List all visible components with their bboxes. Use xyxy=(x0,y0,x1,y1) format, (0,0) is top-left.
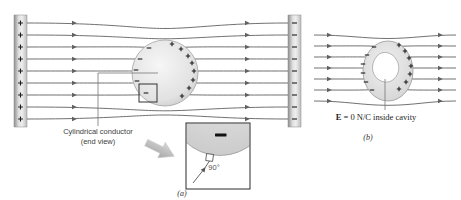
part-a: Cylindrical conductor (end view) (a) xyxy=(14,15,301,198)
field-arrowhead xyxy=(245,105,250,109)
field-arrowhead xyxy=(72,105,77,109)
part-b: E = 0 N/C inside cavity (b) xyxy=(314,35,456,142)
field-arrowhead xyxy=(72,21,77,25)
field-arrowhead xyxy=(72,69,77,73)
field-arrowhead xyxy=(327,66,332,70)
field-arrowhead xyxy=(245,69,250,73)
field-arrowhead xyxy=(72,93,77,97)
conductor-label-line2: (end view) xyxy=(81,137,116,146)
conductor-label-line1: Cylindrical conductor xyxy=(63,127,133,136)
field-arrowhead xyxy=(438,66,443,70)
field-arrowhead xyxy=(245,117,250,121)
caption-b: (b) xyxy=(363,133,373,142)
angle-label: 90° xyxy=(208,163,219,172)
field-arrowhead xyxy=(327,77,332,81)
inset-minus-charge xyxy=(215,134,227,137)
cavity-label-text: = 0 N/C inside cavity xyxy=(341,112,417,122)
field-arrowhead xyxy=(245,81,250,85)
field-arrowhead xyxy=(245,45,250,49)
figure-conductor-in-field: Cylindrical conductor (end view) (a) 90° xyxy=(0,0,461,200)
field-arrowhead xyxy=(438,77,443,81)
field-arrowhead xyxy=(327,99,332,103)
cavity-field-label: E = 0 N/C inside cavity xyxy=(336,112,417,122)
field-arrowhead xyxy=(438,33,443,37)
field-arrowhead xyxy=(72,57,77,61)
field-arrowhead xyxy=(327,33,332,37)
caption-a: (a) xyxy=(177,189,187,198)
right-angle-marker xyxy=(206,154,214,162)
field-arrowhead xyxy=(245,33,250,37)
field-arrowhead xyxy=(438,99,443,103)
field-arrowhead xyxy=(72,81,77,85)
field-arrowhead xyxy=(438,88,443,92)
field-arrowhead xyxy=(438,55,443,59)
magnify-block-arrow xyxy=(143,135,178,164)
field-arrowhead xyxy=(72,33,77,37)
field-arrowhead xyxy=(245,93,250,97)
field-arrowhead xyxy=(438,44,443,48)
cavity xyxy=(373,52,399,82)
field-arrowhead xyxy=(245,21,250,25)
field-arrowhead xyxy=(72,45,77,49)
field-arrowhead xyxy=(245,57,250,61)
field-arrowhead xyxy=(327,88,332,92)
field-arrowhead xyxy=(327,44,332,48)
diagram-canvas: Cylindrical conductor (end view) (a) 90° xyxy=(0,0,461,200)
field-arrowhead xyxy=(72,117,77,121)
field-arrowhead xyxy=(327,55,332,59)
